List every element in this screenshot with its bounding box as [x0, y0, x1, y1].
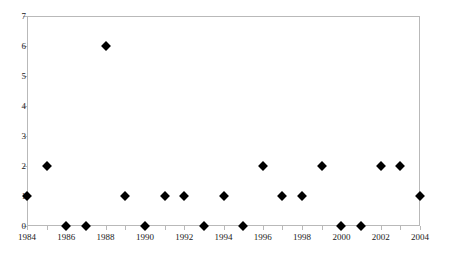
- y-axis-tick-label: 0: [6, 222, 26, 231]
- x-axis-tick-mark: [381, 226, 382, 230]
- y-axis-tick-label: 5: [6, 72, 26, 81]
- x-axis-tick-label: 1994: [204, 233, 244, 242]
- x-axis-tick-mark: [420, 226, 421, 230]
- x-axis-tick-label: 1990: [125, 233, 165, 242]
- x-axis-tick-label: 1984: [7, 233, 47, 242]
- x-axis-tick-mark: [224, 226, 225, 230]
- y-axis-tick-label: 6: [6, 42, 26, 51]
- x-axis-minor-tick-mark: [400, 226, 401, 230]
- x-axis-minor-tick-mark: [165, 226, 166, 230]
- y-axis-tick-label: 3: [6, 132, 26, 141]
- x-axis-minor-tick-mark: [125, 226, 126, 230]
- y-axis-tick-label: 4: [6, 102, 26, 111]
- x-axis-tick-label: 1986: [46, 233, 86, 242]
- x-axis-tick-label: 1988: [86, 233, 126, 242]
- x-axis-tick-label: 2002: [361, 233, 401, 242]
- x-axis-minor-tick-mark: [282, 226, 283, 230]
- y-axis-tick-label: 7: [6, 12, 26, 21]
- x-axis-tick-mark: [302, 226, 303, 230]
- x-axis-tick-label: 1998: [282, 233, 322, 242]
- x-axis-tick-label: 1996: [243, 233, 283, 242]
- x-axis-tick-mark: [106, 226, 107, 230]
- x-axis-minor-tick-mark: [322, 226, 323, 230]
- x-axis-tick-mark: [27, 226, 28, 230]
- x-axis-tick-label: 1992: [164, 233, 204, 242]
- x-axis-tick-label: 2004: [400, 233, 440, 242]
- x-axis-minor-tick-mark: [47, 226, 48, 230]
- x-axis-tick-mark: [263, 226, 264, 230]
- scatter-chart: 01234567 1984198619881990199219941996199…: [0, 0, 451, 253]
- x-axis-tick-label: 2000: [321, 233, 361, 242]
- y-axis-tick-label: 2: [6, 162, 26, 171]
- x-axis-tick-mark: [184, 226, 185, 230]
